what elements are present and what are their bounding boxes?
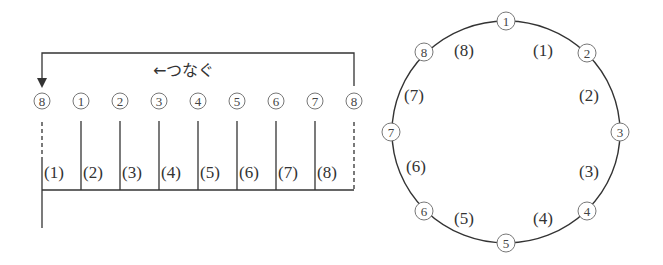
svg-text:(2): (2) <box>83 163 103 182</box>
node-4: 4 <box>190 93 206 109</box>
svg-text:4: 4 <box>195 94 202 109</box>
svg-text:5: 5 <box>234 94 241 109</box>
node-2: 2 <box>112 93 128 109</box>
svg-text:(1): (1) <box>533 41 553 60</box>
svg-text:5: 5 <box>503 236 510 251</box>
svg-text:(6): (6) <box>239 163 259 182</box>
svg-text:(3): (3) <box>579 162 599 181</box>
svg-text:(5): (5) <box>454 209 474 228</box>
svg-text:(1): (1) <box>44 163 64 182</box>
svg-text:2: 2 <box>117 94 124 109</box>
ring-node-8: 8 <box>415 43 433 61</box>
circle-diagram: 1 2 3 4 5 6 7 8 (1) (2) (3) (4) (5) (6) … <box>382 12 629 252</box>
svg-text:(8): (8) <box>454 41 474 60</box>
svg-text:(8): (8) <box>317 163 337 182</box>
node-3: 3 <box>151 93 167 109</box>
ring-node-3: 3 <box>611 123 629 141</box>
svg-text:1: 1 <box>503 14 510 29</box>
node-7: 7 <box>307 93 323 109</box>
svg-text:(7): (7) <box>404 86 424 105</box>
svg-text:6: 6 <box>273 94 280 109</box>
svg-text:7: 7 <box>388 125 395 140</box>
ring-node-6: 6 <box>415 202 433 220</box>
arc-labels: (1) (2) (3) (4) (5) (6) (7) (8) <box>404 41 599 228</box>
connect-label: ←つなぐ <box>153 61 214 80</box>
ring-node-4: 4 <box>578 202 596 220</box>
svg-text:(7): (7) <box>278 163 298 182</box>
svg-text:1: 1 <box>78 94 85 109</box>
svg-text:(6): (6) <box>406 157 426 176</box>
top-node-row: 8 1 2 3 4 5 6 7 8 <box>34 93 362 109</box>
svg-text:(3): (3) <box>122 163 142 182</box>
svg-text:7: 7 <box>312 94 319 109</box>
svg-text:3: 3 <box>156 94 163 109</box>
svg-text:8: 8 <box>39 94 46 109</box>
diagram-canvas: ←つなぐ 8 1 2 3 4 5 6 7 8 <box>0 0 663 265</box>
ring-node-5: 5 <box>497 234 515 252</box>
svg-text:6: 6 <box>421 204 428 219</box>
svg-text:8: 8 <box>421 45 428 60</box>
node-8-left: 8 <box>34 93 50 109</box>
ring-node-1: 1 <box>497 12 515 30</box>
ring-node-2: 2 <box>578 44 596 62</box>
svg-text:4: 4 <box>584 204 591 219</box>
node-6: 6 <box>268 93 284 109</box>
svg-text:3: 3 <box>617 125 624 140</box>
svg-text:(2): (2) <box>579 86 599 105</box>
svg-text:(5): (5) <box>200 163 220 182</box>
ring-nodes: 1 2 3 4 5 6 7 8 <box>382 12 629 252</box>
svg-text:(4): (4) <box>533 209 553 228</box>
node-5: 5 <box>229 93 245 109</box>
svg-text:(4): (4) <box>161 163 181 182</box>
ring-node-7: 7 <box>382 123 400 141</box>
arrowhead-icon <box>37 78 47 88</box>
node-1: 1 <box>73 93 89 109</box>
linear-diagram: ←つなぐ 8 1 2 3 4 5 6 7 8 <box>34 53 362 228</box>
svg-text:2: 2 <box>584 46 591 61</box>
segment-labels: (1) (2) (3) (4) (5) (6) (7) (8) <box>44 163 337 182</box>
svg-text:8: 8 <box>351 94 358 109</box>
node-8-right: 8 <box>346 93 362 109</box>
